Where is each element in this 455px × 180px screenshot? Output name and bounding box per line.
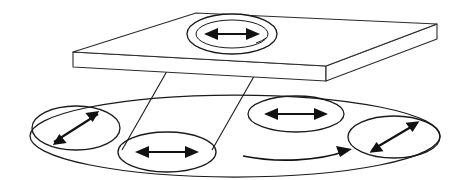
rotating-disk-group [30,95,440,177]
disk-region-back-arrow [264,108,328,120]
disk-region-back-group [248,96,344,132]
disk-region-front-group [118,132,216,172]
diagram-canvas [0,0,455,180]
arrowhead-left [135,146,149,158]
disk-rotation-arrow-path [243,151,346,160]
figure-root [0,0,455,180]
arrowhead-down-left [369,141,384,152]
arrowhead-right [314,108,328,120]
arrowhead-right [185,146,199,158]
plate-aperture-group [187,14,277,54]
disk-region-left-arrow [51,111,100,145]
disk-region-right-group [348,116,440,158]
disk-region-right-arrow [369,121,421,152]
disk-rotation-arrow-group [243,146,352,160]
disk-region-front-arrow [135,146,199,158]
arrowhead-rotation [336,146,352,157]
arrowhead-left [264,108,278,120]
disk-region-left-group [32,106,120,150]
arrowhead-up-right [406,121,421,132]
